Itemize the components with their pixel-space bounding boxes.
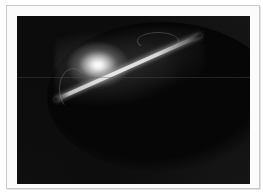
photo xyxy=(17,16,250,184)
scan-line xyxy=(17,77,250,78)
